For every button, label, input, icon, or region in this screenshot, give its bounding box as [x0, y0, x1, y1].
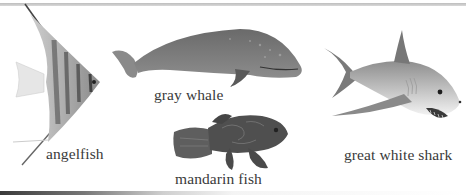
gray-whale-label: gray whale — [154, 86, 223, 104]
gray-whale-image — [110, 25, 310, 90]
great-white-shark-image — [322, 28, 466, 134]
great-white-shark-label: great white shark — [344, 146, 452, 164]
angelfish-image — [8, 2, 103, 167]
mandarin-fish-image — [172, 110, 294, 172]
mandarin-fish-label: mandarin fish — [175, 170, 262, 188]
bottom-border-rule — [0, 191, 466, 195]
angelfish-label: angelfish — [46, 145, 104, 163]
